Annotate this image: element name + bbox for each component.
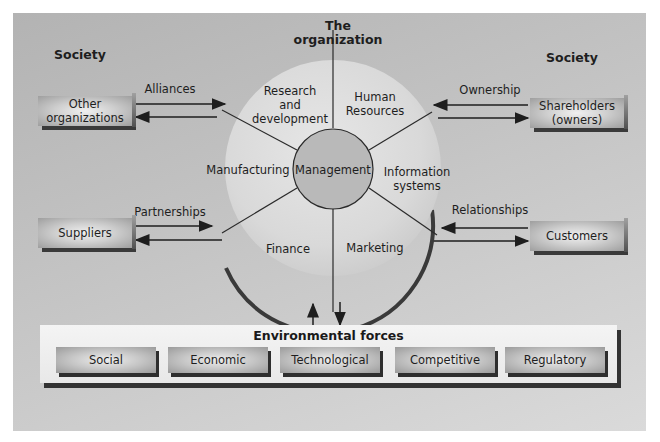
- segment-human-resources: Human Resources: [340, 90, 410, 118]
- force-social: Social: [56, 347, 156, 373]
- segment-finance: Finance: [258, 242, 318, 256]
- environmental-forces-title: Environmental forces: [40, 328, 617, 343]
- partnerships-label: Partnerships: [130, 205, 210, 219]
- force-regulatory: Regulatory: [505, 347, 605, 373]
- segment-marketing: Marketing: [340, 241, 410, 255]
- shareholders-box: Shareholders (owners): [530, 98, 624, 128]
- management-label: Management: [293, 163, 373, 177]
- organization-title: The organization: [293, 19, 383, 47]
- alliances-label: Alliances: [135, 82, 205, 96]
- segment-manufacturing: Manufacturing: [203, 163, 293, 177]
- segment-information-systems: Information systems: [372, 165, 462, 193]
- environmental-forces-panel: Environmental forces Social Economic Tec…: [40, 325, 617, 383]
- relationships-label: Relationships: [450, 203, 530, 217]
- society-label-right: Society: [542, 51, 602, 65]
- other-organizations-box: Other organizations: [38, 96, 132, 126]
- society-label-left: Society: [50, 48, 110, 62]
- customers-box: Customers: [530, 221, 624, 251]
- ownership-label: Ownership: [455, 83, 525, 97]
- force-technological: Technological: [280, 347, 380, 373]
- force-economic: Economic: [168, 347, 268, 373]
- segment-research: Research and development: [250, 84, 330, 126]
- suppliers-box: Suppliers: [38, 218, 132, 248]
- force-competitive: Competitive: [395, 347, 495, 373]
